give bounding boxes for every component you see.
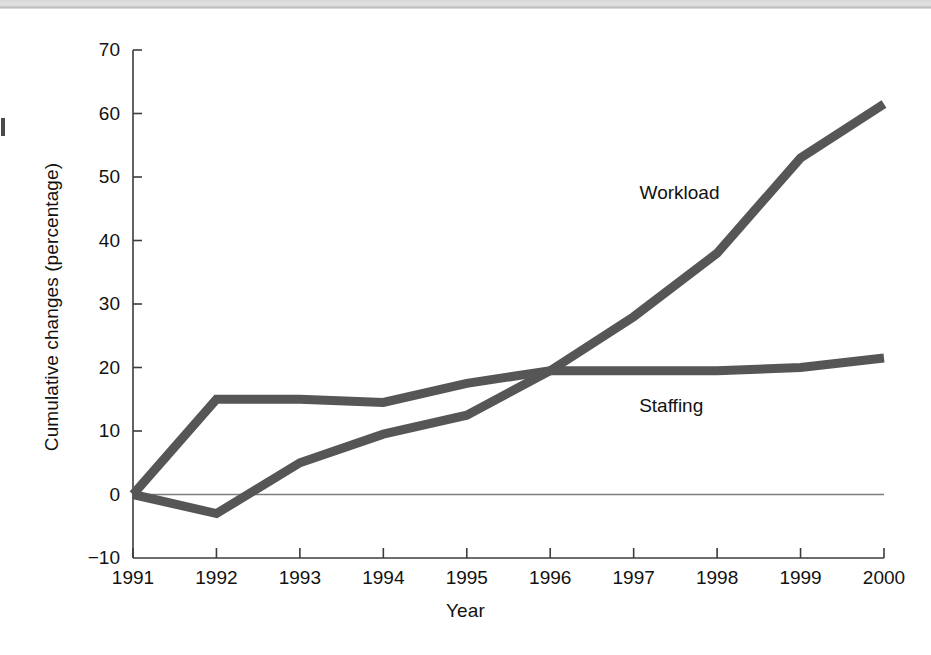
x-tick-label: 1994 [362,567,404,589]
y-tick-label: 60 [58,103,120,125]
series-label-workload: Workload [640,182,720,204]
y-tick-label: −10 [58,547,120,569]
chart-page: Cumulative changes (percentage) Year −10… [0,0,931,655]
x-tick-label: 2000 [863,567,905,589]
x-tick-label: 1993 [279,567,321,589]
series-label-staffing: Staffing [639,395,703,417]
x-tick-label: 1997 [613,567,655,589]
x-tick-label: 1995 [446,567,488,589]
line-chart-plot [0,0,931,655]
y-tick-label: 40 [58,230,120,252]
x-tick-label: 1992 [195,567,237,589]
x-tick-label: 1991 [112,567,154,589]
x-tick-label: 1999 [779,567,821,589]
x-tick-label: 1998 [696,567,738,589]
x-tick-label: 1996 [529,567,571,589]
y-tick-label: 70 [58,39,120,61]
series-line-staffing [133,358,884,495]
y-tick-label: 30 [58,293,120,315]
series-line-workload [133,104,884,514]
y-tick-label: 50 [58,166,120,188]
x-axis-title: Year [0,600,931,622]
y-tick-label: 0 [58,484,120,506]
y-tick-label: 20 [58,357,120,379]
y-tick-label: 10 [58,420,120,442]
